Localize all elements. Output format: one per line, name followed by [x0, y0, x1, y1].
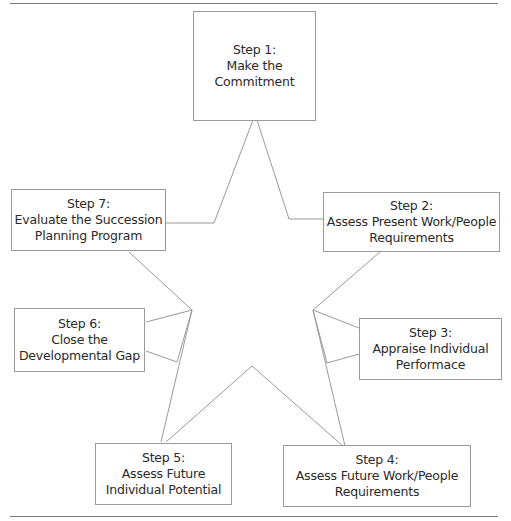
step-1-line1: Make the	[227, 58, 283, 74]
step-3-title: Step 3:	[409, 325, 452, 341]
step-3-box: Step 3: Appraise Individual Performace	[359, 318, 502, 380]
step-5-line1: Assess Future	[122, 466, 205, 482]
step-4-line2: Requirements	[335, 484, 420, 500]
step-1-box: Step 1: Make the Commitment	[193, 11, 316, 121]
edge-step1-step7	[166, 120, 253, 223]
step-5-line2: Individual Potential	[106, 482, 222, 498]
step-1-title: Step 1:	[233, 42, 276, 58]
step-6-title: Step 6:	[58, 316, 101, 332]
edge-step6-step5	[146, 310, 192, 442]
step-5-box: Step 5: Assess Future Individual Potenti…	[95, 443, 232, 505]
step-4-box: Step 4: Assess Future Work/People Requir…	[283, 445, 471, 507]
step-2-line2: Requirements	[369, 230, 454, 246]
step-6-line1: Close the	[51, 332, 108, 348]
step-4-title: Step 4:	[355, 452, 398, 468]
step-7-line1: Evaluate the Succession	[15, 212, 163, 228]
step-6-line2: Developmental Gap	[19, 348, 140, 364]
step-3-line1: Appraise Individual	[373, 341, 489, 357]
step-6-box: Step 6: Close the Developmental Gap	[14, 308, 145, 372]
edge-step2-notch-right	[313, 251, 381, 328]
step-2-title: Step 2:	[390, 198, 433, 214]
step-4-line1: Assess Future Work/People	[296, 468, 458, 484]
step-1-line2: Commitment	[215, 74, 295, 90]
step-7-line2: Planning Program	[35, 228, 142, 244]
edge-bottom-notch	[166, 366, 343, 446]
step-2-box: Step 2: Assess Present Work/People Requi…	[323, 192, 500, 252]
step-7-box: Step 7: Evaluate the Succession Planning…	[11, 189, 166, 251]
edge-step1-step2	[257, 120, 323, 219]
step-7-title: Step 7:	[67, 196, 110, 212]
step-5-title: Step 5:	[142, 450, 185, 466]
step-2-line1: Assess Present Work/People	[327, 214, 496, 230]
step-3-line2: Performace	[396, 357, 465, 373]
